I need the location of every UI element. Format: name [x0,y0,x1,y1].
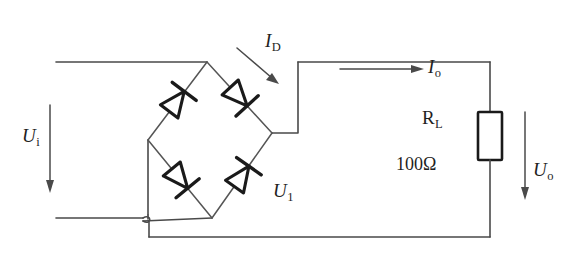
diode-bottom-right [222,158,261,196]
input-voltage-subscript: i [36,135,39,149]
wire-input-bottom-right [143,218,212,221]
output-voltage-symbol: U [533,159,547,180]
load-resistor-label: RL [422,108,443,127]
bridge-voltage-label: U1 [273,181,293,200]
output-current-symbol: I [428,56,434,77]
diode-current-label: ID [265,31,281,50]
diode-current-symbol: I [265,30,271,51]
output-voltage-label: Uo [533,160,553,179]
resistance-value-label: 100Ω [396,155,436,173]
output-voltage-arrow [521,112,529,200]
input-voltage-symbol: U [22,125,36,146]
diode-top-right [219,77,258,116]
bridge-voltage-symbol: U [273,180,287,201]
circuit-diagram-canvas: Ui ID Io U1 Uo RL 100Ω [0,0,568,273]
diode-current-subscript: D [272,40,281,54]
load-resistor-subscript: L [435,117,443,131]
diode-top-left [157,82,196,120]
circuit-schematic [0,0,568,273]
output-current-label: Io [428,57,441,76]
bridge-voltage-subscript: 1 [287,190,293,204]
input-voltage-arrow [46,105,54,193]
load-resistor-symbol [478,112,502,160]
diode-bottom-left [160,159,199,197]
input-voltage-label: Ui [22,126,40,145]
output-current-arrow [340,65,424,73]
load-resistor-symbol-text: R [422,107,435,128]
output-voltage-subscript: o [547,169,553,183]
wire-right-node-up [272,62,298,133]
output-current-subscript: o [435,66,441,80]
